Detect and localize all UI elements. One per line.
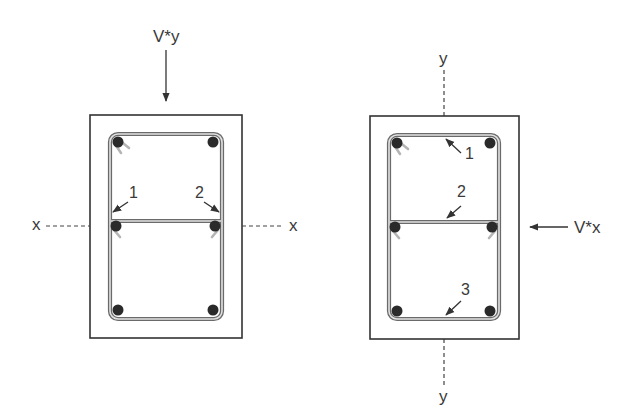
rebars-right [390, 138, 498, 317]
callout-arrow-2-right [447, 206, 461, 218]
load-label-vy: V*y [153, 28, 179, 45]
load-label-vx: V*x [574, 219, 600, 236]
stirrup-right [389, 135, 499, 319]
callout-label-2-right: 2 [457, 184, 466, 200]
callout-arrow-1-left [113, 202, 128, 212]
axis-label-y-bottom: y [439, 388, 448, 405]
callout-label-1-left: 1 [129, 185, 138, 201]
callout-arrow-1-right [446, 139, 461, 153]
callout-label-2-left: 2 [195, 185, 204, 201]
rebars-left [111, 137, 221, 316]
stirrup-left [110, 134, 222, 319]
callout-label-3-right: 3 [461, 282, 470, 298]
callout-label-1-right: 1 [465, 146, 474, 162]
callout-arrow-3-right [446, 301, 461, 315]
callout-arrow-2-left [204, 202, 219, 212]
axis-label-y-top: y [439, 50, 448, 67]
axis-label-x-left: x [32, 216, 41, 233]
left-section [46, 50, 284, 338]
right-section [370, 70, 568, 385]
diagram-canvas [0, 0, 632, 419]
axis-label-x-right: x [289, 217, 298, 234]
